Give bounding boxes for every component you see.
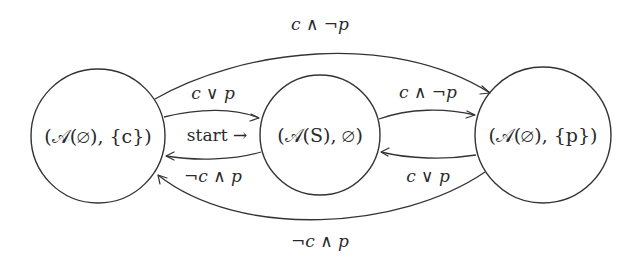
state-diagram: (𝒜(∅), {c}) (𝒜(S), ∅) (𝒜(∅), {p}) c ∧ ¬p… xyxy=(0,0,643,267)
arrowhead-icon xyxy=(381,148,389,156)
start-marker-label: start → xyxy=(187,127,247,144)
node-left-label: (𝒜(∅), {c}) xyxy=(44,127,152,146)
edge-label-left-to-right-top: c ∧ ¬p xyxy=(291,16,349,33)
edge-label-right-to-middle: c ∨ p xyxy=(406,168,450,185)
edge-label-left-to-middle: c ∨ p xyxy=(191,85,235,102)
edge-label-middle-to-left: ¬c ∧ p xyxy=(184,168,242,185)
edge-label-middle-to-right: c ∧ ¬p xyxy=(399,84,457,101)
edge-middle-to-left xyxy=(166,152,261,159)
node-right-label: (𝒜(∅), {p}) xyxy=(488,126,597,145)
edge-left-to-middle xyxy=(164,110,259,118)
edge-middle-to-right xyxy=(379,110,475,119)
node-middle-label: (𝒜(S), ∅) xyxy=(277,126,363,145)
edge-label-right-to-left-bottom: ¬c ∧ p xyxy=(291,233,349,250)
edge-right-to-middle xyxy=(381,152,476,158)
